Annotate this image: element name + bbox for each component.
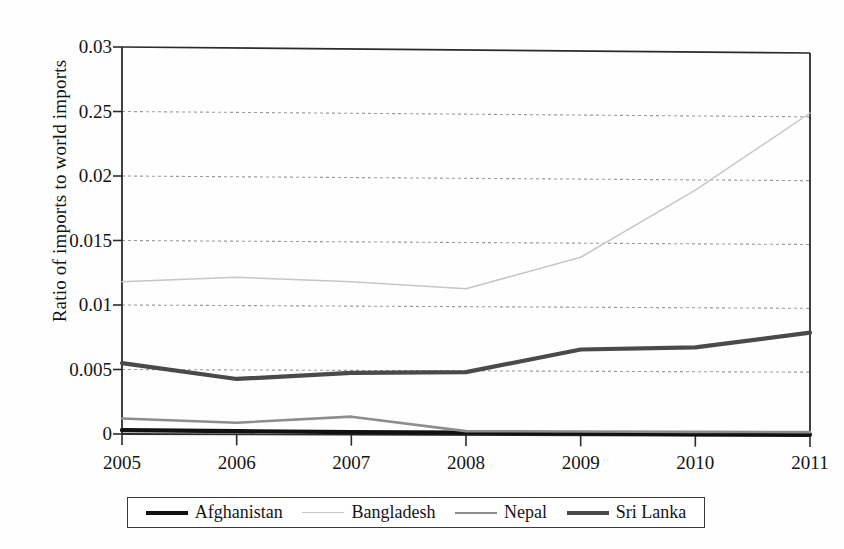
legend-swatch <box>455 512 497 514</box>
legend-item[interactable]: Bangladesh <box>302 502 435 523</box>
legend-swatch <box>302 512 344 513</box>
gridline <box>122 241 810 245</box>
chart-figure: Ratio of imports to world imports 0.030.… <box>0 0 844 549</box>
legend-label: Afghanistan <box>195 502 283 523</box>
axis-tick-marks <box>113 47 810 447</box>
legend-swatch <box>567 511 609 515</box>
chart-legend: AfghanistanBangladeshNepalSri Lanka <box>127 497 705 528</box>
gridline <box>122 112 810 117</box>
legend-label: Bangladesh <box>351 502 435 523</box>
legend-item[interactable]: Afghanistan <box>146 502 283 523</box>
legend-item[interactable]: Sri Lanka <box>567 502 686 523</box>
data-series-lines <box>122 113 810 435</box>
plot-area <box>0 0 844 549</box>
gridline <box>122 305 810 308</box>
gridlines <box>122 112 810 373</box>
legend-swatch <box>146 511 188 515</box>
legend-label: Nepal <box>504 502 547 523</box>
axis-top <box>122 47 810 53</box>
legend-label: Sri Lanka <box>616 502 686 523</box>
series-line <box>122 113 810 289</box>
legend-item[interactable]: Nepal <box>455 502 547 523</box>
gridline <box>122 176 810 181</box>
